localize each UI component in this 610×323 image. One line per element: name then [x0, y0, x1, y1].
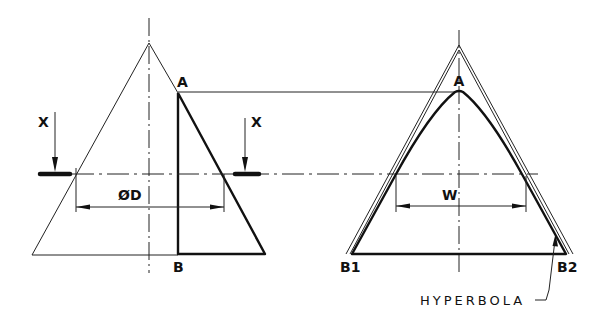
left-apex-label: A: [177, 74, 188, 90]
hyperbola-label: HYPERBOLA: [420, 293, 525, 308]
left-base-label: B: [173, 259, 184, 275]
diameter-arrow-left: [76, 205, 90, 210]
base-right-label: B2: [557, 259, 577, 275]
diameter-arrow-right: [210, 205, 224, 210]
hyperbola-leader-line: [535, 240, 555, 300]
left-cone-outline: [32, 43, 178, 255]
section-label-left: X: [38, 114, 49, 130]
width-arrow-right: [512, 204, 526, 209]
right-apex-label: A: [454, 73, 465, 89]
cone-hyperbola-drawing: X X ØD A B W A B1 B2: [0, 0, 610, 323]
section-arrow-left-head: [52, 157, 58, 172]
width-label: W: [442, 187, 457, 203]
base-left-label: B1: [340, 259, 360, 275]
section-arrow-right-head: [242, 157, 248, 172]
width-arrow-left: [396, 204, 410, 209]
section-label-right: X: [251, 114, 262, 130]
diameter-label: ØD: [118, 187, 142, 203]
right-view: W A B1 B2 HYPERBOLA: [340, 30, 577, 308]
